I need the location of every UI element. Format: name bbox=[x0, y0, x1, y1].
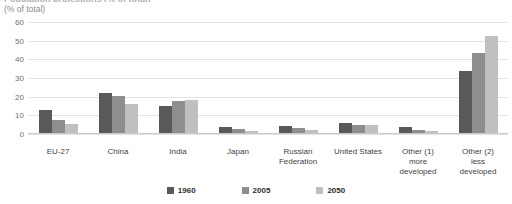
bar-groups bbox=[28, 22, 508, 133]
bar bbox=[39, 110, 52, 133]
bar-group bbox=[328, 22, 388, 133]
chart-title-clipped: Population projections (% of total) bbox=[4, 0, 151, 2]
bar-group bbox=[388, 22, 448, 133]
bar bbox=[425, 131, 438, 133]
x-axis-label: Japan bbox=[208, 147, 268, 177]
bar bbox=[172, 101, 185, 133]
y-axis-tick: 10 bbox=[15, 111, 24, 120]
legend-label: 2050 bbox=[327, 186, 345, 195]
bar-group bbox=[448, 22, 508, 133]
bar bbox=[232, 129, 245, 133]
bar bbox=[65, 124, 78, 133]
y-axis: 6050403020100 bbox=[0, 22, 28, 134]
legend-label: 1960 bbox=[178, 186, 196, 195]
legend-item[interactable]: 2005 bbox=[242, 186, 271, 195]
bar-group bbox=[88, 22, 148, 133]
x-axis-label: United States bbox=[328, 147, 388, 177]
bar bbox=[185, 100, 198, 133]
bar-group bbox=[268, 22, 328, 133]
legend-swatch-icon bbox=[167, 187, 174, 194]
bar-group bbox=[208, 22, 268, 133]
bar bbox=[99, 93, 112, 133]
bar bbox=[279, 126, 292, 133]
bar bbox=[459, 71, 472, 133]
bar bbox=[412, 130, 425, 133]
legend-item[interactable]: 2050 bbox=[316, 186, 345, 195]
y-axis-tick: 20 bbox=[15, 92, 24, 101]
bar bbox=[365, 125, 378, 133]
bar bbox=[485, 36, 498, 133]
bar bbox=[219, 127, 232, 133]
bar bbox=[399, 127, 412, 133]
bar-chart: Population projections (% of total) (% o… bbox=[0, 0, 512, 204]
bar bbox=[245, 131, 258, 133]
axis-baseline bbox=[28, 133, 508, 134]
plot-area: 6050403020100 bbox=[0, 22, 512, 146]
gridline bbox=[28, 134, 508, 135]
bar-group bbox=[28, 22, 88, 133]
bar bbox=[472, 53, 485, 133]
y-axis-tick: 0 bbox=[20, 130, 24, 139]
bar bbox=[159, 106, 172, 133]
bar bbox=[112, 96, 125, 133]
bar bbox=[52, 120, 65, 133]
legend-swatch-icon bbox=[242, 187, 249, 194]
bar bbox=[305, 130, 318, 133]
legend-label: 2005 bbox=[253, 186, 271, 195]
x-axis-label: RussianFederation bbox=[268, 147, 328, 177]
legend-swatch-icon bbox=[316, 187, 323, 194]
x-axis-label: India bbox=[148, 147, 208, 177]
bar bbox=[292, 128, 305, 133]
y-axis-tick: 30 bbox=[15, 74, 24, 83]
bar-group bbox=[148, 22, 208, 133]
y-axis-tick: 40 bbox=[15, 55, 24, 64]
x-axis-label: China bbox=[88, 147, 148, 177]
x-axis-labels: EU-27ChinaIndiaJapanRussianFederationUni… bbox=[28, 147, 508, 177]
x-axis-label: Other (1)moredeveloped bbox=[388, 147, 448, 177]
chart-subtitle: (% of total) bbox=[4, 4, 45, 14]
y-axis-tick: 60 bbox=[15, 18, 24, 27]
bar bbox=[339, 123, 352, 133]
x-axis-label: Other (2)lessdeveloped bbox=[448, 147, 508, 177]
bar bbox=[352, 125, 365, 133]
y-axis-tick: 50 bbox=[15, 36, 24, 45]
bar bbox=[125, 104, 138, 133]
x-axis-label: EU-27 bbox=[28, 147, 88, 177]
grid-area bbox=[28, 22, 508, 134]
chart-legend: 196020052050 bbox=[0, 186, 512, 195]
legend-item[interactable]: 1960 bbox=[167, 186, 196, 195]
